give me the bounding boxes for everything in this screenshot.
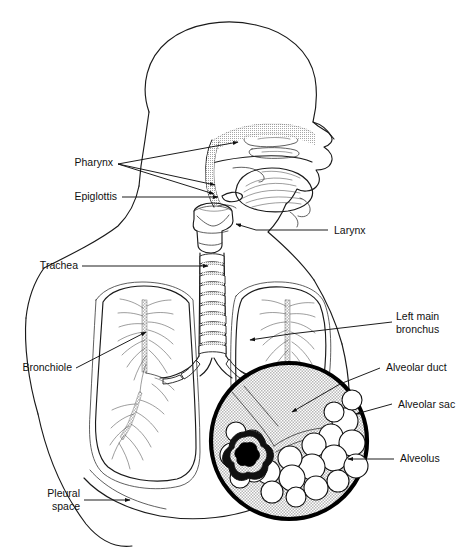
- label-alveolar-sac: Alveolar sac: [398, 398, 455, 410]
- label-pleural-space-line1: Pleural: [47, 487, 80, 499]
- anatomy-illustration: Pharynx Epiglottis Trachea Bronchiole Pl…: [0, 0, 466, 549]
- label-pharynx: Pharynx: [74, 156, 113, 168]
- trachea-with-cartilage-rings: [199, 253, 226, 356]
- label-trachea: Trachea: [40, 259, 78, 271]
- label-alveolus: Alveolus: [400, 452, 440, 464]
- label-left-main-bronchus-line1: Left main: [396, 310, 439, 322]
- label-pleural-space-line2: space: [52, 500, 80, 512]
- respiratory-system-figure: Pharynx Epiglottis Trachea Bronchiole Pl…: [0, 0, 466, 549]
- label-epiglottis: Epiglottis: [74, 190, 117, 202]
- label-bronchiole: Bronchiole: [22, 361, 72, 373]
- label-left-main-bronchus-line2: bronchus: [396, 323, 439, 335]
- alveoli-magnification-circle: [211, 363, 368, 519]
- label-larynx: Larynx: [334, 224, 366, 236]
- label-alveolar-duct: Alveolar duct: [386, 361, 447, 373]
